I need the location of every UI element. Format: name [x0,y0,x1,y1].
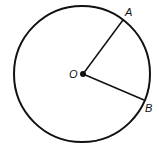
center-point-dot [80,71,86,77]
point-a-label: A [124,6,132,18]
diagram-canvas: O A B [0,0,159,144]
point-b-label: B [145,102,152,114]
radius-ob [83,74,144,100]
center-label: O [69,68,78,80]
circle-diagram: O A B [0,0,159,144]
radius-oa [83,20,123,74]
